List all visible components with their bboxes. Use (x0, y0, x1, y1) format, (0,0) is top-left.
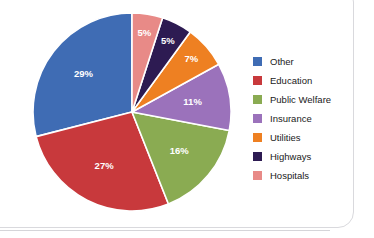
legend-item-utilities[interactable]: Utilities (253, 128, 365, 147)
pie-slice-label: 27% (95, 160, 115, 171)
pie-slice-label: 11% (183, 96, 202, 107)
pie-slice-label: 16% (170, 145, 190, 156)
legend-item-other[interactable]: Other (253, 52, 365, 71)
legend-item-education[interactable]: Education (253, 71, 365, 90)
legend-item-label: Other (270, 57, 294, 67)
legend-item-label: Education (270, 76, 312, 86)
legend-item-public-welfare[interactable]: Public Welfare (253, 90, 365, 109)
legend-color-swatch (253, 133, 262, 142)
pie-slice-group (33, 13, 231, 211)
pie-slice-label: 7% (185, 53, 199, 64)
legend-item-label: Utilities (270, 133, 301, 143)
pie-slice-label: 5% (161, 35, 175, 46)
pie-chart-figure: 29%27%16%11%7%5%5% OtherEducationPublic … (0, 0, 374, 238)
legend-color-swatch (253, 152, 262, 161)
legend-color-swatch (253, 57, 262, 66)
legend-item-label: Insurance (270, 114, 312, 124)
pie-slice-label: 29% (74, 68, 94, 79)
pie-slice-label: 5% (138, 27, 152, 38)
legend-color-swatch (253, 95, 262, 104)
legend-item-highways[interactable]: Highways (253, 147, 365, 166)
legend-color-swatch (253, 76, 262, 85)
pie-chart-svg: 29%27%16%11%7%5%5% (32, 12, 232, 212)
legend-color-swatch (253, 114, 262, 123)
legend-item-label: Highways (270, 152, 311, 162)
chart-legend: OtherEducationPublic WelfareInsuranceUti… (253, 52, 365, 185)
legend-item-insurance[interactable]: Insurance (253, 109, 365, 128)
legend-color-swatch (253, 171, 262, 180)
legend-item-label: Hospitals (270, 171, 309, 181)
legend-item-label: Public Welfare (270, 95, 331, 105)
legend-item-hospitals[interactable]: Hospitals (253, 166, 365, 185)
